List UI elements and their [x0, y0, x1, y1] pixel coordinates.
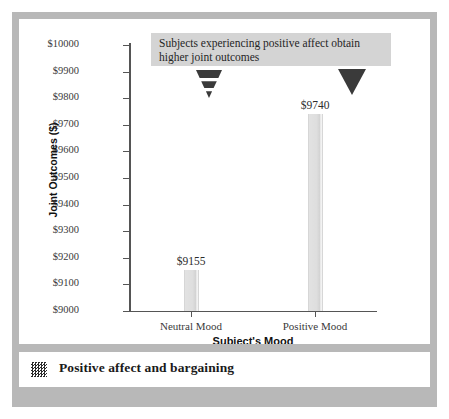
chart-panel: $10000$9900$9800$9700$9600$9500$9400$930…	[19, 19, 430, 344]
triangle-slice-1	[196, 70, 222, 78]
x-axis-tick-label: Neutral Mood	[131, 320, 251, 332]
y-axis-tick	[123, 231, 129, 232]
bar	[308, 114, 323, 311]
y-axis-tick	[123, 72, 129, 73]
triangle-slice-2	[201, 81, 217, 88]
x-axis-tick	[315, 311, 316, 317]
y-axis-tick	[123, 45, 129, 46]
x-axis-tick	[191, 311, 192, 317]
y-axis-tick-label: $9100	[19, 277, 79, 288]
annotation-text: Subjects experiencing positive affect ob…	[159, 37, 383, 64]
x-axis-tick-label: Positive Mood	[255, 320, 375, 332]
caption-panel: Positive affect and bargaining	[19, 352, 430, 387]
y-axis-line	[129, 43, 131, 312]
y-axis-tick	[123, 284, 129, 285]
plot-area: $10000$9900$9800$9700$9600$9500$9400$930…	[19, 19, 430, 344]
annotation-callout: Subjects experiencing positive affect ob…	[151, 33, 391, 66]
y-axis-tick	[123, 125, 129, 126]
bar-value-label: $9155	[131, 255, 251, 267]
bar-value-label: $9740	[255, 99, 375, 111]
bar	[184, 270, 199, 311]
sliced-triangle-marker	[196, 70, 222, 98]
y-axis-tick-label: $9900	[19, 65, 79, 76]
y-axis-title: Joint Outcomes ($)	[47, 90, 59, 250]
x-axis-title: Subject's Mood	[129, 335, 377, 344]
solid-triangle-marker	[338, 69, 366, 95]
y-axis-tick-label: $9200	[19, 251, 79, 262]
y-axis-tick	[123, 151, 129, 152]
triangle-glyph	[338, 69, 366, 95]
y-axis-tick	[123, 258, 129, 259]
y-axis-tick-label: $10000	[19, 38, 79, 49]
x-axis-line	[129, 311, 377, 313]
y-axis-tick	[123, 311, 129, 312]
dithered-thumbnail-icon	[31, 362, 47, 377]
triangle-slice-3	[206, 91, 212, 98]
y-axis-tick	[123, 98, 129, 99]
figure-caption: Positive affect and bargaining	[59, 360, 234, 376]
y-axis-tick-label: $9000	[19, 304, 79, 315]
y-axis-tick	[123, 178, 129, 179]
y-axis-tick	[123, 205, 129, 206]
